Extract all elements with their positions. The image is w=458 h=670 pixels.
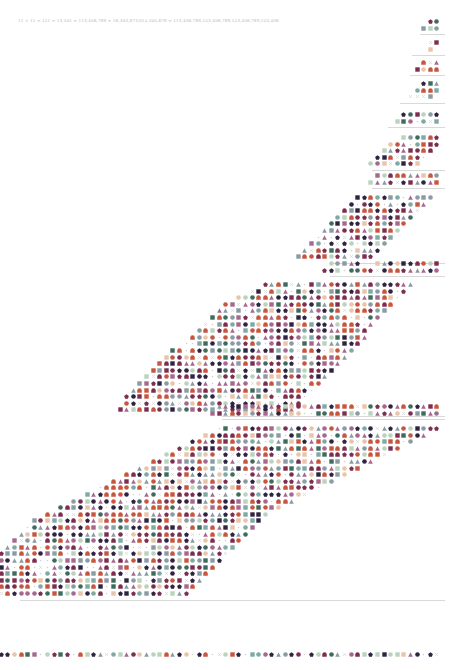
pentagon-icon bbox=[65, 565, 70, 570]
circle-icon bbox=[401, 426, 406, 431]
square-icon bbox=[45, 551, 50, 556]
circle-icon bbox=[230, 315, 235, 320]
circle-icon bbox=[104, 512, 109, 517]
dot-icon bbox=[309, 388, 314, 393]
square-icon bbox=[65, 558, 70, 563]
arch-icon bbox=[230, 538, 235, 543]
square-icon bbox=[164, 551, 169, 556]
pentagon-icon bbox=[197, 545, 202, 550]
square-icon bbox=[421, 26, 426, 31]
square-icon bbox=[58, 525, 63, 530]
square-icon bbox=[151, 485, 156, 490]
triangle-icon bbox=[236, 381, 241, 386]
triangle-icon bbox=[408, 173, 413, 178]
square-icon bbox=[71, 558, 76, 563]
pentagon-icon bbox=[283, 308, 288, 313]
dot-icon bbox=[144, 545, 149, 550]
cross-icon bbox=[236, 459, 241, 464]
cross-icon bbox=[177, 452, 182, 457]
arch-icon bbox=[283, 394, 288, 399]
triangle-icon bbox=[329, 341, 334, 346]
cross-icon bbox=[164, 591, 169, 596]
circle-icon bbox=[118, 525, 123, 530]
triangle-icon bbox=[342, 254, 347, 259]
cross-icon bbox=[177, 401, 182, 406]
pentagon-icon bbox=[309, 479, 314, 484]
arch-icon bbox=[164, 532, 169, 537]
circle-icon bbox=[296, 328, 301, 333]
circle-icon bbox=[217, 374, 222, 379]
pentagon-icon bbox=[368, 254, 373, 259]
square-icon bbox=[170, 492, 175, 497]
square-icon bbox=[256, 512, 261, 517]
arch-icon bbox=[5, 591, 10, 596]
dot-icon bbox=[368, 261, 373, 266]
circle-icon bbox=[58, 505, 63, 510]
circle-icon bbox=[131, 578, 136, 583]
arch-icon bbox=[85, 525, 90, 530]
circle-icon bbox=[322, 466, 327, 471]
arch-icon bbox=[170, 452, 175, 457]
pentagon-icon bbox=[65, 652, 70, 657]
circle-icon bbox=[190, 459, 195, 464]
triangle-icon bbox=[329, 322, 334, 327]
square-icon bbox=[243, 505, 248, 510]
square-icon bbox=[342, 215, 347, 220]
square-icon bbox=[335, 295, 340, 300]
circle-icon bbox=[52, 532, 57, 537]
circle-icon bbox=[276, 411, 281, 416]
square-icon bbox=[355, 195, 360, 200]
arch-icon bbox=[118, 558, 123, 563]
circle-icon bbox=[408, 433, 413, 438]
circle-icon bbox=[368, 215, 373, 220]
triangle-icon bbox=[309, 295, 314, 300]
circle-icon bbox=[177, 466, 182, 471]
square-icon bbox=[243, 348, 248, 353]
circle-icon bbox=[316, 381, 321, 386]
circle-icon bbox=[236, 335, 241, 340]
dot-icon bbox=[236, 525, 241, 530]
pentagon-icon bbox=[283, 452, 288, 457]
pentagon-icon bbox=[118, 571, 123, 576]
circle-icon bbox=[170, 459, 175, 464]
pentagon-icon bbox=[137, 532, 142, 537]
triangle-icon bbox=[296, 479, 301, 484]
square-icon bbox=[190, 565, 195, 570]
square-icon bbox=[91, 512, 96, 517]
arch-icon bbox=[269, 381, 274, 386]
square-icon bbox=[322, 479, 327, 484]
triangle-icon bbox=[250, 394, 255, 399]
circle-icon bbox=[368, 235, 373, 240]
circle-icon bbox=[322, 411, 327, 416]
arch-icon bbox=[91, 558, 96, 563]
circle-icon bbox=[349, 439, 354, 444]
cross-icon bbox=[263, 289, 268, 294]
square-icon bbox=[190, 407, 195, 412]
circle-icon bbox=[349, 202, 354, 207]
square-icon bbox=[289, 322, 294, 327]
arch-icon bbox=[197, 459, 202, 464]
square-icon bbox=[428, 47, 433, 52]
pentagon-icon bbox=[329, 241, 334, 246]
triangle-icon bbox=[12, 558, 17, 563]
circle-icon bbox=[335, 348, 340, 353]
circle-icon bbox=[421, 119, 426, 124]
circle-icon bbox=[269, 341, 274, 346]
triangle-icon bbox=[190, 472, 195, 477]
pentagon-icon bbox=[316, 315, 321, 320]
square-icon bbox=[309, 282, 314, 287]
arch-icon bbox=[157, 525, 162, 530]
circle-icon bbox=[302, 295, 307, 300]
pentagon-icon bbox=[408, 161, 413, 166]
circle-icon bbox=[184, 505, 189, 510]
circle-icon bbox=[124, 485, 129, 490]
cross-icon bbox=[355, 404, 360, 409]
circle-icon bbox=[19, 584, 24, 589]
pentagon-icon bbox=[164, 584, 169, 589]
arch-icon bbox=[302, 254, 307, 259]
cross-icon bbox=[256, 485, 261, 490]
cross-icon bbox=[217, 652, 222, 657]
square-icon bbox=[276, 289, 281, 294]
pentagon-icon bbox=[65, 518, 70, 523]
circle-icon bbox=[164, 407, 169, 412]
